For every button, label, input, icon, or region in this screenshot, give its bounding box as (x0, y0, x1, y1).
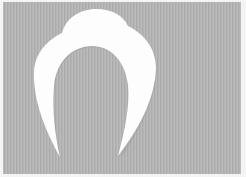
cutout-body (34, 9, 156, 157)
paper-arch-cutout (3, 2, 241, 174)
photo-background (3, 2, 241, 174)
